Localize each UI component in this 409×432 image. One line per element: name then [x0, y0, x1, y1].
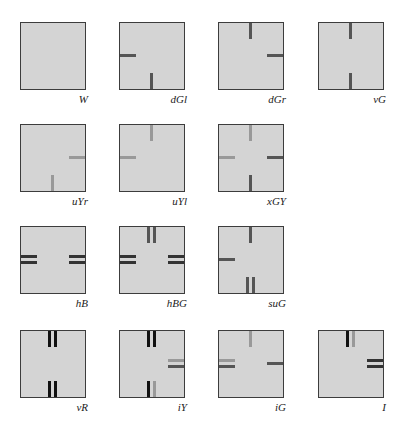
connector-bar-bottom	[48, 381, 51, 397]
tile-label: iG	[226, 401, 286, 413]
connector-bar-right	[168, 261, 184, 264]
connector-bar-right	[168, 359, 184, 362]
connector-bar-top	[48, 331, 51, 347]
tile-label: hBG	[127, 297, 187, 309]
tile-dGr	[218, 22, 284, 90]
connector-bar-left	[21, 261, 37, 264]
connector-bar-top	[249, 331, 252, 347]
tile-label: dGr	[226, 93, 286, 105]
tile-label: vR	[28, 401, 88, 413]
tile-label: hB	[28, 297, 88, 309]
connector-bar-bottom	[153, 381, 156, 397]
connector-bar-left	[21, 255, 37, 258]
tile-label: uYr	[28, 195, 88, 207]
connector-bar-top	[150, 125, 153, 141]
tile-hB	[20, 226, 86, 294]
tile-label: W	[28, 93, 88, 105]
tile-iG	[218, 330, 284, 398]
tile-label: xGY	[226, 195, 286, 207]
tile-iY	[119, 330, 185, 398]
connector-bar-left	[120, 54, 136, 57]
connector-bar-top	[352, 331, 355, 347]
tile-vG	[318, 22, 384, 90]
connector-bar-right	[367, 359, 383, 362]
connector-bar-right	[69, 255, 85, 258]
tile-W	[20, 22, 86, 90]
tile-xGY	[218, 124, 284, 192]
connector-bar-right	[168, 255, 184, 258]
connector-bar-left	[120, 261, 136, 264]
connector-bar-top	[249, 227, 252, 243]
connector-bar-top	[147, 227, 150, 243]
connector-bar-right	[367, 365, 383, 368]
connector-bar-top	[54, 331, 57, 347]
connector-bar-bottom	[252, 277, 255, 293]
connector-bar-left	[120, 156, 136, 159]
connector-bar-left	[219, 258, 235, 261]
connector-bar-top	[346, 331, 349, 347]
connector-bar-bottom	[249, 175, 252, 191]
tile-suG	[218, 226, 284, 294]
tile-label: suG	[226, 297, 286, 309]
connector-bar-bottom	[54, 381, 57, 397]
connector-bar-left	[219, 359, 235, 362]
connector-bar-left	[219, 365, 235, 368]
connector-bar-right	[267, 156, 283, 159]
connector-bar-right	[168, 365, 184, 368]
tile-dGl	[119, 22, 185, 90]
connector-bar-bottom	[147, 381, 150, 397]
connector-bar-right	[69, 261, 85, 264]
connector-bar-bottom	[349, 73, 352, 89]
connector-bar-bottom	[150, 73, 153, 89]
connector-bar-left	[219, 156, 235, 159]
connector-bar-top	[147, 331, 150, 347]
connector-bar-left	[120, 255, 136, 258]
connector-bar-top	[153, 227, 156, 243]
connector-bar-top	[349, 23, 352, 39]
connector-bar-bottom	[51, 175, 54, 191]
connector-bar-top	[153, 331, 156, 347]
connector-bar-right	[267, 362, 283, 365]
tile-uYl	[119, 124, 185, 192]
tile-label: uYl	[127, 195, 187, 207]
connector-bar-right	[69, 156, 85, 159]
tile-label: dGl	[127, 93, 187, 105]
tile-hBG	[119, 226, 185, 294]
connector-bar-top	[249, 23, 252, 39]
tile-vR	[20, 330, 86, 398]
tile-uYr	[20, 124, 86, 192]
connector-bar-top	[249, 125, 252, 141]
connector-bar-right	[267, 54, 283, 57]
tile-label: I	[326, 401, 386, 413]
tile-label: vG	[326, 93, 386, 105]
tile-I	[318, 330, 384, 398]
connector-bar-bottom	[246, 277, 249, 293]
tile-label: iY	[127, 401, 187, 413]
